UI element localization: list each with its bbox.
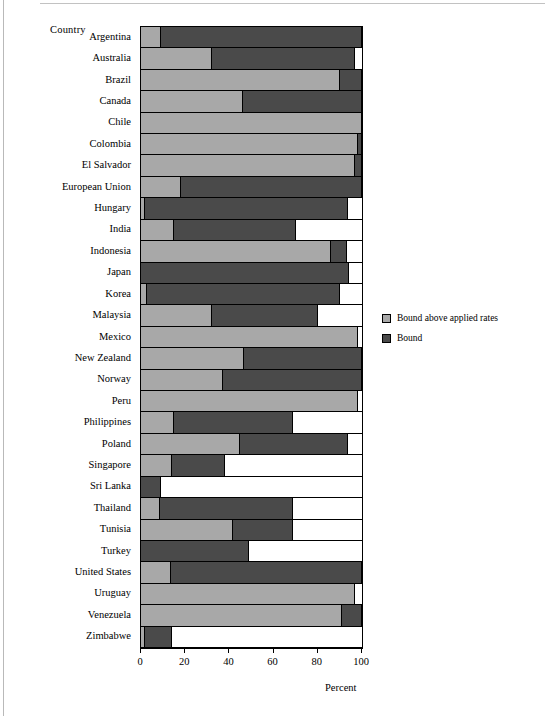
x-axis-title: Percent <box>325 682 357 693</box>
legend-swatch-bound-above-applied <box>382 314 391 323</box>
bar-segment-bound-above-applied <box>141 584 355 605</box>
x-axis-line <box>140 648 361 649</box>
bar-row <box>141 155 362 176</box>
x-axis-tick <box>361 648 362 653</box>
bar-segment-bound <box>212 305 318 326</box>
bar-segment-bound <box>223 370 362 391</box>
legend-label-bound-above-applied: Bound above applied rates <box>397 314 498 324</box>
bar-segment-bound <box>342 605 362 626</box>
y-axis-label-poland: Poland <box>102 439 131 450</box>
y-axis-label-sri-lanka: Sri Lanka <box>90 481 131 492</box>
bar-segment-bound <box>141 263 349 284</box>
legend-item-bound-above-applied: Bound above applied rates <box>382 313 537 324</box>
bar-segment-bound-above-applied <box>141 91 243 112</box>
bar-segment-bound-above-applied <box>141 155 355 176</box>
bar-segment-bound <box>358 134 362 155</box>
y-axis-label-brazil: Brazil <box>105 75 131 86</box>
bar-segment-bound-above-applied <box>141 391 358 412</box>
legend-label-bound: Bound <box>397 334 422 344</box>
y-axis-label-hungary: Hungary <box>94 203 131 214</box>
bar-segment-bound <box>141 477 161 498</box>
y-axis-label-uruguay: Uruguay <box>94 588 131 599</box>
y-axis-label-argentina: Argentina <box>89 32 131 43</box>
bar-segment-bound <box>147 284 340 305</box>
y-axis-label-japan: Japan <box>107 267 131 278</box>
bar-segment-bound-above-applied <box>141 113 362 134</box>
bar-segment-bound <box>240 434 347 455</box>
y-axis-label-european-union: European Union <box>62 182 131 193</box>
bar-row <box>141 284 362 305</box>
x-axis-tick <box>140 648 141 653</box>
bar-segment-bound-above-applied <box>141 370 223 391</box>
bar-row <box>141 198 362 219</box>
stacked-bar-chart: Country ArgentinaAustraliaBrazilCanadaCh… <box>0 0 545 716</box>
bar-segment-bound-above-applied <box>141 177 181 198</box>
bar-row <box>141 498 362 519</box>
bar-row <box>141 520 362 541</box>
y-axis-label-thailand: Thailand <box>94 503 131 514</box>
plot-area <box>140 26 363 649</box>
bar-row <box>141 477 362 498</box>
y-axis-label-malaysia: Malaysia <box>93 310 132 321</box>
bar-segment-bound <box>181 177 362 198</box>
y-axis-label-turkey: Turkey <box>101 546 131 557</box>
bar-row <box>141 412 362 433</box>
y-axis-label-new-zealand: New Zealand <box>75 353 131 364</box>
x-axis-tick-label: 0 <box>137 656 142 667</box>
bar-segment-bound <box>161 27 362 48</box>
y-axis-label-norway: Norway <box>97 374 131 385</box>
x-axis-tick-label: 40 <box>223 656 234 667</box>
bar-segment-bound-above-applied <box>141 220 174 241</box>
bar-segment-bound <box>141 541 249 562</box>
y-axis-label-korea: Korea <box>105 289 131 300</box>
bar-segment-bound <box>212 48 356 69</box>
legend-swatch-bound <box>382 334 391 343</box>
x-axis-tick <box>228 648 229 653</box>
bar-segment-bound-above-applied <box>141 498 160 519</box>
y-axis-label-singapore: Singapore <box>88 460 131 471</box>
bar-segment-bound-above-applied <box>141 348 244 369</box>
y-axis-label-peru: Peru <box>112 396 131 407</box>
bar-row <box>141 541 362 562</box>
x-axis-tick <box>273 648 274 653</box>
bar-segment-bound-above-applied <box>141 134 358 155</box>
y-axis-label-tunisia: Tunisia <box>100 524 131 535</box>
bar-segment-bound <box>171 562 362 583</box>
bar-row <box>141 584 362 605</box>
bar-segment-bound <box>340 70 362 91</box>
y-axis-label-united-states: United States <box>75 567 131 578</box>
bar-segment-bound <box>243 91 362 112</box>
y-axis-label-philippines: Philippines <box>84 417 131 428</box>
bar-row <box>141 220 362 241</box>
bar-segment-bound <box>145 627 172 648</box>
bar-row <box>141 48 362 69</box>
x-axis-tick <box>317 648 318 653</box>
x-axis-tick-label: 20 <box>179 656 190 667</box>
bar-row <box>141 241 362 262</box>
bar-segment-bound <box>160 498 294 519</box>
y-axis-label-indonesia: Indonesia <box>90 246 131 257</box>
bar-segment-bound <box>174 220 296 241</box>
bar-segment-bound-above-applied <box>141 27 161 48</box>
bar-row <box>141 113 362 134</box>
bar-row <box>141 177 362 198</box>
bar-segment-bound-above-applied <box>141 241 331 262</box>
bar-segment-bound <box>174 412 293 433</box>
bar-row <box>141 562 362 583</box>
bar-segment-bound-above-applied <box>141 562 171 583</box>
bar-segment-bound-above-applied <box>141 305 212 326</box>
bar-row <box>141 605 362 626</box>
x-axis-tick-label: 80 <box>312 656 323 667</box>
bar-row <box>141 348 362 369</box>
y-axis-label-canada: Canada <box>100 96 132 107</box>
bar-segment-bound <box>233 520 294 541</box>
bar-segment-bound <box>244 348 362 369</box>
bar-segment-bound-above-applied <box>141 605 342 626</box>
y-axis-label-india: India <box>109 224 131 235</box>
x-axis-tick-label: 100 <box>353 656 369 667</box>
bar-segment-bound <box>355 155 362 176</box>
bar-segment-bound-above-applied <box>141 412 174 433</box>
bar-segment-bound-above-applied <box>141 434 240 455</box>
bar-row <box>141 391 362 412</box>
y-axis-label-colombia: Colombia <box>90 139 131 150</box>
